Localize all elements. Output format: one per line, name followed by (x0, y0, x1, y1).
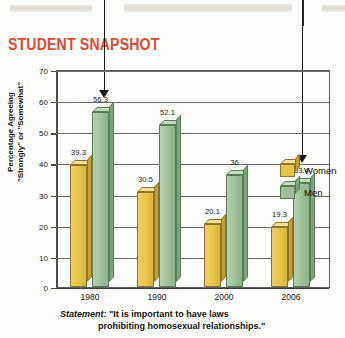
bar-women-1990: 30.5 (137, 192, 154, 287)
bar-value-label: 56.3 (93, 95, 108, 104)
statement-line2: prohibiting homosexual relationships." (98, 320, 265, 332)
y-tick-label-20: 20 (39, 222, 48, 231)
cube-icon (280, 164, 295, 177)
page-title: STUDENT SNAPSHOT (8, 36, 159, 54)
bar-value-label: 30.5 (138, 175, 153, 184)
x-tick-label-1990: 1990 (148, 292, 167, 302)
bar-women-1980: 39.3 (70, 165, 87, 287)
x-tick-label-2000: 2000 (215, 292, 234, 302)
y-axis-title-line1: Percentage Agreeing (6, 92, 15, 172)
y-tick-label-0: 0 (44, 284, 48, 293)
scan-smudge-2 (124, 4, 292, 12)
legend-label-men: Men (304, 187, 322, 198)
x-tick-label-2006: 2006 (282, 292, 301, 302)
gridline-70: 70 (56, 71, 329, 72)
bar-men-2000: 36 (226, 175, 243, 287)
statement-line1: "It is important to have laws (109, 309, 229, 319)
scan-smudge-1 (10, 5, 92, 12)
y-tick-label-70: 70 (39, 67, 48, 76)
gridline-0: 0 (56, 288, 329, 289)
bar-women-2006: 19.3 (271, 227, 288, 287)
bar-value-label: 19.3 (272, 210, 287, 219)
y-tick-label-40: 40 (39, 160, 48, 169)
scan-smudge-3 (322, 5, 345, 12)
y-tick-label-60: 60 (39, 98, 48, 107)
legend-label-women: Women (304, 165, 337, 176)
y-tick-label-50: 50 (39, 129, 48, 138)
bar-men-2006: 33.4 (293, 183, 310, 287)
chart-page: STUDENT SNAPSHOT Percentage Agreeing "St… (0, 0, 345, 338)
bar-value-label: 36 (230, 158, 238, 167)
bar-women-2000: 20.1 (204, 224, 221, 287)
y-tick-label-10: 10 (39, 253, 48, 262)
bar-value-label: 52.1 (160, 108, 175, 117)
bar-men-1990: 52.1 (159, 125, 176, 287)
statement-prefix: Statement: (60, 309, 107, 319)
y-axis-title-line2: "Strongly" or "Somewhat" (16, 82, 25, 182)
x-tick-label-1980: 1980 (81, 292, 100, 302)
y-tick-label-30: 30 (39, 191, 48, 200)
plot-area: 70 60 50 40 30 20 10 0 39.3 56.3 (56, 70, 330, 288)
cube-icon (280, 186, 295, 199)
bar-value-label: 39.3 (71, 148, 86, 157)
y-axis-title: Percentage Agreeing "Strongly" or "Somew… (6, 62, 26, 202)
statement: Statement: "It is important to have laws… (60, 308, 265, 332)
bar-value-label: 20.1 (205, 207, 220, 216)
bar-men-1980: 56.3 (92, 112, 109, 287)
